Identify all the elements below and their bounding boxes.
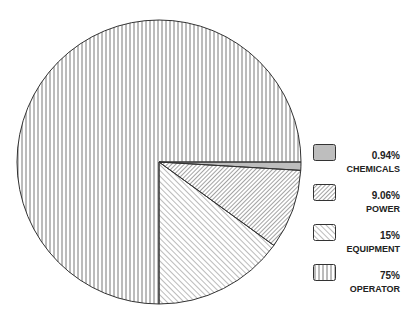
legend-percent: 75%	[380, 270, 400, 281]
chemicals-swatch-icon	[313, 144, 336, 161]
legend-percent: 0.94%	[372, 150, 400, 161]
legend-label: OPERATOR	[350, 284, 400, 294]
legend-label: EQUIPMENT	[346, 244, 400, 254]
equipment-swatch-icon	[313, 224, 336, 241]
operator-swatch-icon	[313, 264, 336, 281]
legend-percent: 15%	[380, 230, 400, 241]
pie-chart	[0, 0, 408, 319]
legend-percent: 9.06%	[372, 190, 400, 201]
legend-label: POWER	[366, 204, 400, 214]
power-swatch-icon	[313, 184, 336, 201]
legend-label: CHEMICALS	[347, 164, 401, 174]
